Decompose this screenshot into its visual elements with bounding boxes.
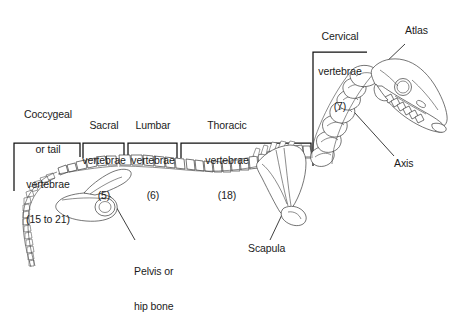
label-scapula: Scapula [248, 243, 285, 255]
label-pelvis-line-1: Pelvis or [134, 266, 174, 278]
label-thoracic-vertebrae: Thoracic vertebrae (18) [184, 97, 270, 225]
label-cervical-count: (7) [300, 101, 380, 113]
label-lumbar-line-1: Lumbar [115, 120, 191, 132]
label-axis: Axis [394, 158, 413, 170]
label-cervical-line-2: vertebrae [300, 66, 380, 78]
label-thoracic-line-2: vertebrae [184, 155, 270, 167]
label-pelvis-hip-bone: Pelvis or hip bone [134, 243, 174, 316]
label-thoracic-line-1: Thoracic [184, 120, 270, 132]
skull [371, 59, 447, 132]
label-lumbar-count: (6) [115, 190, 191, 202]
label-lumbar-vertebrae: Lumbar vertebrae (6) [115, 97, 191, 225]
label-pelvis-line-2: hip bone [134, 301, 174, 313]
label-thoracic-count: (18) [184, 190, 270, 202]
label-atlas: Atlas [405, 25, 428, 37]
label-cervical-vertebrae: Cervical vertebrae (7) [300, 8, 380, 136]
label-cervical-line-1: Cervical [300, 31, 380, 43]
label-lumbar-line-2: vertebrae [115, 155, 191, 167]
